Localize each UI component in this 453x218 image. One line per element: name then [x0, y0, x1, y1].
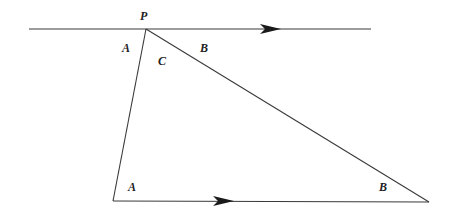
- top-left-angle-label: A: [121, 41, 130, 55]
- base-line: [113, 201, 429, 202]
- bottom-right-angle-label: B: [378, 180, 387, 194]
- triangle-diagram: P A B C A B: [0, 0, 453, 218]
- apex-angle-label: C: [158, 54, 167, 68]
- right-side-line: [146, 29, 429, 202]
- top-right-angle-label: B: [199, 41, 208, 55]
- apex-label: P: [140, 9, 148, 23]
- bottom-left-angle-label: A: [127, 180, 136, 194]
